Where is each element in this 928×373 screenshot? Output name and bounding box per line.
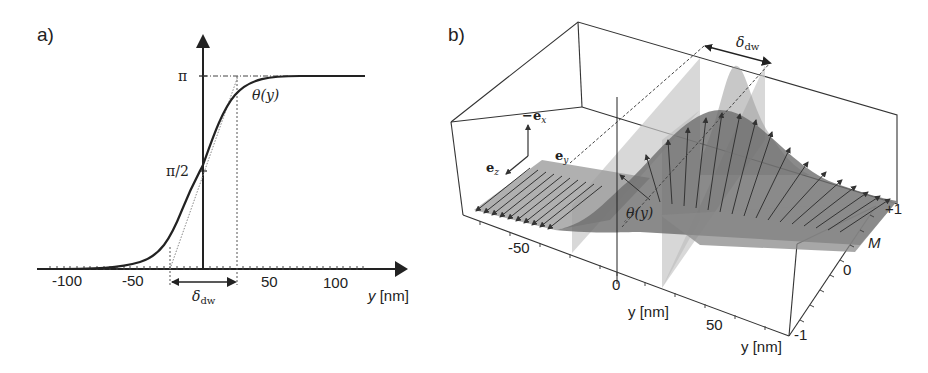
m-axis-label: M	[868, 234, 881, 251]
vector-ez-label: ez	[486, 160, 499, 177]
m-tick-minus1: -1	[794, 326, 807, 343]
theta-curve-label: θ(y)	[252, 87, 279, 103]
y-tick-minus50-3d: -50	[508, 239, 530, 256]
x-axis-label: y [nm]	[367, 287, 409, 304]
x-tick-50: 50	[261, 273, 278, 290]
panel-a: a)	[37, 24, 409, 306]
dw-label-3d: δdw	[736, 34, 760, 52]
vector-ey-label: ey	[555, 148, 569, 165]
y-axis-label-3d: y [nm]	[628, 303, 669, 320]
y-axis-label-3d-2: y [nm]	[741, 338, 782, 355]
m-tick-plus1: +1	[885, 200, 902, 217]
panel-b-label: b)	[448, 24, 465, 45]
y-tick-0-3d: 0	[612, 276, 620, 293]
vector-minus-ex-label: −ex	[522, 108, 546, 125]
x-axis-arrow-icon	[395, 261, 408, 277]
y-axis-arrow-icon	[196, 34, 210, 48]
panel-a-label: a)	[37, 24, 54, 45]
x-tick-minus50: -50	[122, 272, 144, 289]
m-tick-0: 0	[843, 261, 851, 278]
panel-b: b)	[448, 22, 902, 355]
y-tick-50-3d: 50	[706, 316, 723, 333]
dw-label: δdw	[192, 288, 216, 306]
y-tick-pi-half: π/2	[166, 163, 189, 179]
y-tick-pi: π	[178, 68, 187, 84]
x-tick-100: 100	[323, 274, 348, 291]
theta-label-3d: θ(y)	[626, 205, 653, 221]
x-tick-minus100: -100	[52, 272, 82, 289]
vector-ez-icon	[506, 156, 528, 174]
figure: a)	[0, 0, 928, 373]
